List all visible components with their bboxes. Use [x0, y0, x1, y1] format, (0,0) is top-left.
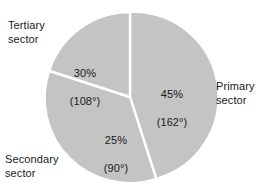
pie-value-tertiary-angle: (108°): [55, 94, 115, 108]
pie-label-tertiary-sector: Tertiary sector: [8, 18, 45, 46]
pie-value-primary-sector: 45% (162°): [142, 73, 202, 143]
pie-value-secondary-percent: 25%: [86, 133, 146, 147]
pie-label-primary-sector: Primary sector: [216, 79, 255, 107]
pie-value-primary-percent: 45%: [142, 87, 202, 101]
pie-value-primary-angle: (162°): [142, 115, 202, 129]
pie-value-tertiary-percent: 30%: [55, 66, 115, 80]
pie-value-tertiary-sector: 30% (108°): [55, 52, 115, 122]
pie-value-secondary-angle: (90°): [86, 161, 146, 175]
pie-value-secondary-sector: 25% (90°): [86, 119, 146, 189]
pie-label-secondary-sector: Secondary sector: [5, 152, 59, 180]
pie-chart-figure: Tertiary sector Primary sector Secondary…: [0, 0, 269, 194]
